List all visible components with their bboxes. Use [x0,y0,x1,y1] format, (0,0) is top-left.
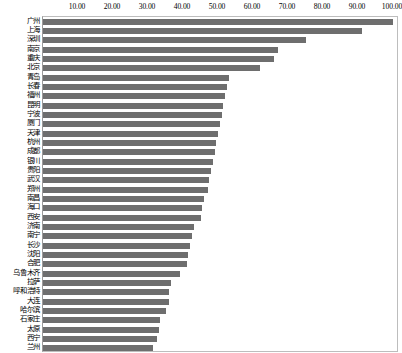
bar-row [43,205,398,211]
bar-贵阳 [43,168,211,174]
bar-合肥 [43,261,187,267]
bar-row [43,47,398,53]
x-tick-label: 30.00 [139,2,156,12]
bar-row [43,233,398,239]
bar-深圳 [43,37,306,43]
y-axis-label-19: 南昌 [27,194,40,202]
bar-row [43,28,398,34]
y-axis-label-15: 银川 [27,157,40,165]
bar-row [43,271,398,277]
y-axis-label-0: 广州 [27,17,40,25]
bar-石家庄 [43,317,160,323]
y-axis-label-30: 大连 [27,297,40,305]
bar-长沙 [43,243,190,249]
bar-郑州 [43,187,208,193]
x-tick-label: 100.00 [382,2,402,12]
y-axis-label-28: 拉萨 [27,278,40,286]
bar-row [43,317,398,323]
y-axis-label-8: 福州 [27,91,40,99]
bar-上海 [43,28,362,34]
x-tick-label: 60.00 [244,2,261,12]
y-axis-category-labels: 广州上海深圳南京重庆北京青岛长春福州昆明宁波厦门天津杭州成都银川贵阳武汉郑州南昌… [0,16,42,352]
bar-乌鲁木齐 [43,271,180,277]
bar-兰州 [43,345,153,351]
bar-row [43,177,398,183]
bar-西安 [43,215,201,221]
x-tick-label: 90.00 [349,2,366,12]
bar-row [43,37,398,43]
bar-row [43,149,398,155]
bar-row [43,299,398,305]
y-axis-label-23: 南宁 [27,231,40,239]
bar-银川 [43,159,213,165]
bar-成都 [43,149,215,155]
y-axis-label-10: 宁波 [27,110,40,118]
bar-row [43,215,398,221]
y-axis-label-35: 兰州 [27,343,40,351]
bar-row [43,131,398,137]
bar-row [43,261,398,267]
bar-济南 [43,224,194,230]
y-axis-label-24: 长沙 [27,241,40,249]
y-axis-label-2: 深圳 [27,35,40,43]
y-axis-label-26: 合肥 [27,259,40,267]
y-axis-label-22: 济南 [27,222,40,230]
bar-row [43,84,398,90]
bar-row [43,327,398,333]
x-tick-label: 10.00 [69,2,86,12]
bar-row [43,187,398,193]
bar-row [43,159,398,165]
y-axis-label-14: 成都 [27,147,40,155]
y-axis-label-7: 长春 [27,82,40,90]
y-axis-label-32: 石家庄 [20,315,40,323]
bar-row [43,93,398,99]
x-tick-label: 40.00 [174,2,191,12]
bar-row [43,308,398,314]
y-axis-label-4: 重庆 [27,54,40,62]
y-axis-label-3: 南京 [27,45,40,53]
bar-row [43,19,398,25]
bar-北京 [43,65,260,71]
x-tick-label: 50.00 [209,2,226,12]
x-axis-top: 10.0020.0030.0040.0050.0060.0070.0080.00… [0,0,398,16]
bar-row [43,289,398,295]
x-tick-label: 20.00 [104,2,121,12]
bar-福州 [43,93,225,99]
bar-row [43,112,398,118]
y-axis-label-16: 贵阳 [27,166,40,174]
bar-西宁 [43,336,157,342]
bar-拉萨 [43,280,171,286]
y-axis-label-1: 上海 [27,26,40,34]
bar-青岛 [43,75,229,81]
bar-row [43,103,398,109]
bar-大连 [43,299,169,305]
bar-杭州 [43,140,216,146]
bar-row [43,345,398,351]
bar-海口 [43,205,202,211]
y-axis-label-25: 沈阳 [27,250,40,258]
y-axis-label-21: 西安 [27,213,40,221]
bar-哈尔滨 [43,308,166,314]
y-axis-label-34: 西宁 [27,334,40,342]
x-tick-label: 80.00 [314,2,331,12]
y-axis-label-20: 海口 [27,203,40,211]
y-axis-label-33: 太原 [27,325,40,333]
bar-呼和浩特 [43,289,169,295]
bar-row [43,140,398,146]
bar-宁波 [43,112,222,118]
y-axis-label-29: 呼和浩特 [13,287,40,295]
bar-沈阳 [43,252,188,258]
bar-南昌 [43,196,204,202]
bar-row [43,56,398,62]
bar-row [43,168,398,174]
y-axis-label-13: 杭州 [27,138,40,146]
bar-row [43,224,398,230]
plot-area [42,16,398,352]
bar-row [43,280,398,286]
y-axis-label-27: 乌鲁木齐 [13,269,40,277]
y-axis-label-12: 天津 [27,129,40,137]
y-axis-label-9: 昆明 [27,101,40,109]
bar-南京 [43,47,278,53]
bar-广州 [43,19,393,25]
